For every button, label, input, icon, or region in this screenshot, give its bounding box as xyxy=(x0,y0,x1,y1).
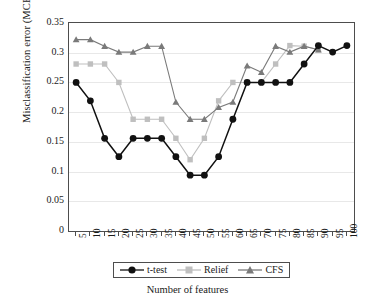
x-tick-label: 50 xyxy=(207,229,217,239)
data-point-relief xyxy=(173,136,178,141)
y-tick-label: 0.15 xyxy=(32,136,64,146)
x-tick-mark xyxy=(175,232,176,236)
data-point-t-test xyxy=(286,79,293,86)
data-point-t-test xyxy=(144,135,151,142)
x-tick-mark xyxy=(246,232,247,236)
y-tick-label: 0.2 xyxy=(32,106,64,116)
x-tick-mark xyxy=(346,232,347,236)
legend-item-relief: Relief xyxy=(177,265,228,275)
x-tick-label: 55 xyxy=(222,229,232,239)
data-point-t-test xyxy=(272,79,279,86)
x-tick-label: 75 xyxy=(279,229,289,239)
y-tick-label: 0.35 xyxy=(32,17,64,27)
legend-item-cfs: CFS xyxy=(238,265,283,275)
x-tick-mark xyxy=(189,232,190,236)
data-point-t-test xyxy=(244,79,251,86)
x-tick-mark xyxy=(161,232,162,236)
data-point-relief xyxy=(159,117,164,122)
data-point-cfs xyxy=(258,69,265,75)
x-tick-label: 40 xyxy=(179,229,189,239)
data-point-t-test xyxy=(187,172,194,179)
data-point-relief xyxy=(202,136,207,141)
x-tick-label: 45 xyxy=(193,229,203,239)
x-tick-mark xyxy=(89,232,90,236)
legend-label-t-test: t-test xyxy=(147,265,167,275)
x-tick-label: 15 xyxy=(108,229,118,239)
x-tick-label: 80 xyxy=(293,229,303,239)
x-tick-mark xyxy=(104,232,105,236)
data-point-relief xyxy=(216,98,221,103)
legend-label-relief: Relief xyxy=(204,265,228,275)
series-line-relief xyxy=(76,46,318,160)
data-point-relief xyxy=(287,43,292,48)
x-tick-mark xyxy=(203,232,204,236)
series-line-cfs xyxy=(76,40,318,120)
data-point-t-test xyxy=(315,42,322,49)
data-point-t-test xyxy=(229,116,236,123)
data-point-t-test xyxy=(87,97,94,104)
x-tick-label: 20 xyxy=(122,229,132,239)
x-tick-label: 10 xyxy=(93,229,103,239)
data-point-t-test xyxy=(343,42,350,49)
legend-item-t-test: t-test xyxy=(120,265,167,275)
data-point-relief xyxy=(273,61,278,66)
x-tick-mark xyxy=(332,232,333,236)
legend-marker-square-icon xyxy=(177,265,201,275)
data-point-relief xyxy=(116,80,121,85)
data-point-t-test xyxy=(301,61,308,68)
data-point-t-test xyxy=(329,49,336,56)
data-point-t-test xyxy=(130,135,137,142)
x-tick-mark xyxy=(303,232,304,236)
data-point-t-test xyxy=(201,172,208,179)
data-point-relief xyxy=(130,117,135,122)
y-tick-label: 0 xyxy=(32,225,64,235)
x-tick-mark xyxy=(260,232,261,236)
series-layer xyxy=(69,23,354,231)
data-point-relief xyxy=(102,61,107,66)
data-point-cfs xyxy=(172,99,179,105)
data-point-relief xyxy=(73,61,78,66)
data-point-relief xyxy=(88,61,93,66)
data-point-relief xyxy=(145,117,150,122)
data-point-cfs xyxy=(286,49,293,55)
x-tick-mark xyxy=(118,232,119,236)
data-point-cfs xyxy=(244,62,251,68)
chart-legend: t-test Relief CFS xyxy=(113,262,290,278)
x-tick-label: 90 xyxy=(321,229,331,239)
x-tick-label: 5 xyxy=(79,233,89,238)
data-point-t-test xyxy=(115,153,122,160)
x-tick-label: 95 xyxy=(336,229,346,239)
plot-area xyxy=(68,22,355,232)
x-tick-mark xyxy=(218,232,219,236)
legend-marker-circle-icon xyxy=(120,265,144,275)
data-point-t-test xyxy=(215,153,222,160)
data-point-t-test xyxy=(101,135,108,142)
chart-figure: Misclassification error (MCE) 00.050.10.… xyxy=(0,0,375,303)
y-axis-ticks: 00.050.10.150.20.250.30.35 xyxy=(28,0,64,303)
x-tick-label: 60 xyxy=(236,229,246,239)
x-tick-label: 85 xyxy=(307,229,317,239)
data-point-t-test xyxy=(73,79,80,86)
y-tick-label: 0.1 xyxy=(32,166,64,176)
data-point-cfs xyxy=(272,43,279,49)
y-tick-label: 0.25 xyxy=(32,76,64,86)
legend-marker-triangle-icon xyxy=(238,265,262,275)
x-tick-label: 100 xyxy=(350,224,360,238)
x-tick-label: 65 xyxy=(250,229,260,239)
data-point-relief xyxy=(187,157,192,162)
x-tick-mark xyxy=(132,232,133,236)
x-tick-mark xyxy=(275,232,276,236)
x-tick-mark xyxy=(317,232,318,236)
x-tick-mark xyxy=(75,232,76,236)
data-point-t-test xyxy=(158,135,165,142)
x-tick-label: 25 xyxy=(136,229,146,239)
data-point-relief xyxy=(230,80,235,85)
data-point-cfs xyxy=(229,99,236,105)
data-point-t-test xyxy=(258,79,265,86)
data-point-cfs xyxy=(101,43,108,49)
data-point-t-test xyxy=(172,153,179,160)
x-tick-label: 35 xyxy=(165,229,175,239)
x-tick-mark xyxy=(289,232,290,236)
y-tick-label: 0.05 xyxy=(32,195,64,205)
x-axis-title: Number of features xyxy=(0,284,375,295)
